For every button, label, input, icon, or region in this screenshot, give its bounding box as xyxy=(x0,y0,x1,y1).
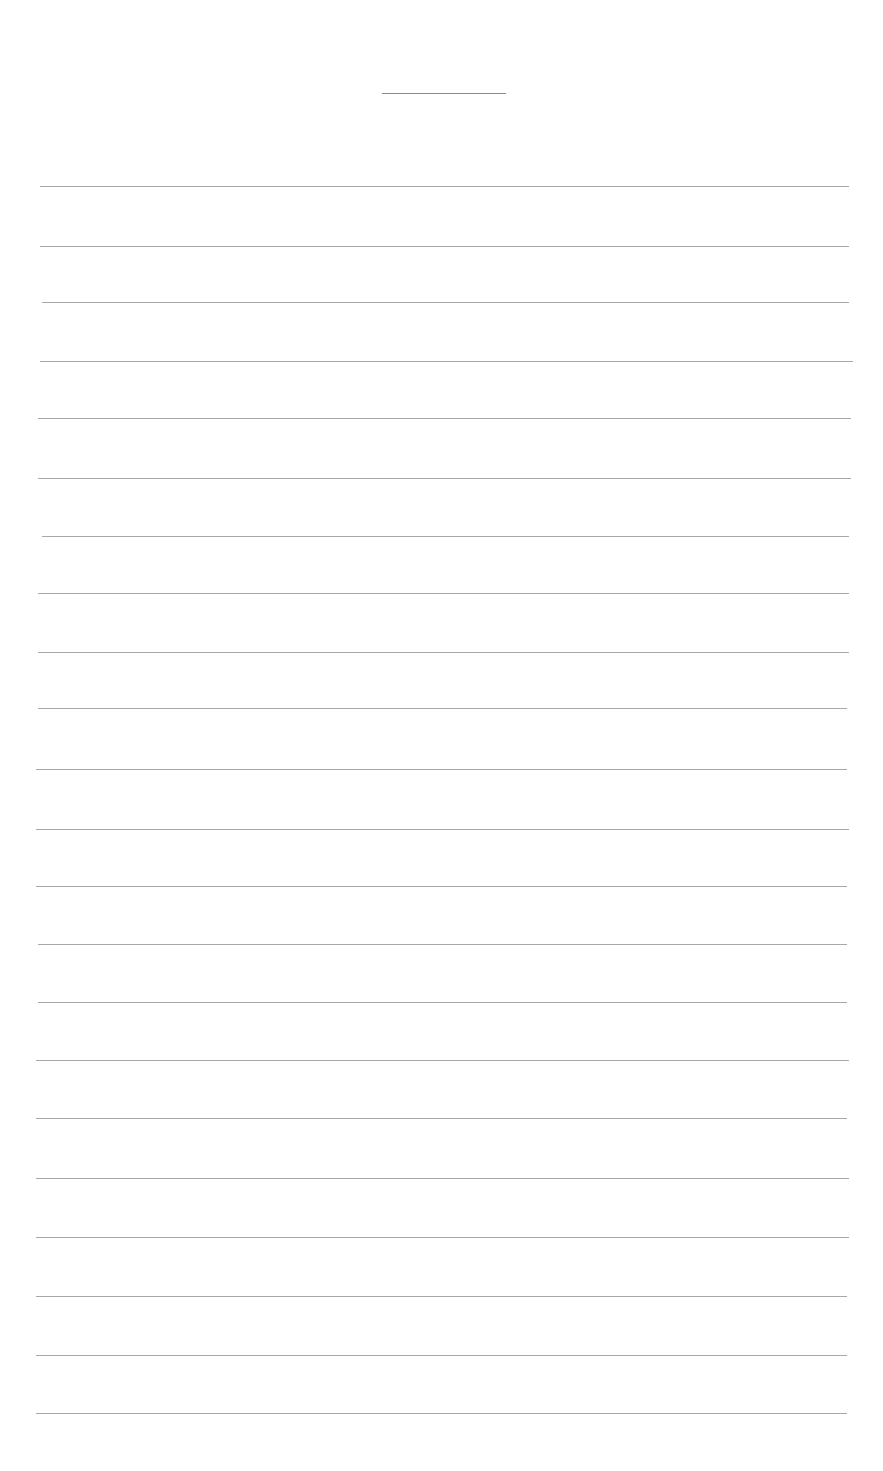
ruled-line xyxy=(38,418,851,419)
ruled-line xyxy=(42,536,849,537)
ruled-line xyxy=(38,1002,847,1003)
ruled-line xyxy=(38,478,851,479)
ruled-line xyxy=(36,1413,847,1414)
ruled-line xyxy=(38,593,849,594)
ruled-line xyxy=(36,1237,849,1238)
title-line xyxy=(382,93,506,94)
ruled-line xyxy=(36,829,849,830)
ruled-line xyxy=(40,246,849,247)
ruled-line xyxy=(40,361,853,362)
ruled-line xyxy=(36,1178,849,1179)
ruled-line xyxy=(38,708,847,709)
ruled-line xyxy=(42,302,849,303)
ruled-line xyxy=(36,1355,847,1356)
ruled-line xyxy=(36,1060,849,1061)
ruled-line xyxy=(36,1296,847,1297)
ruled-line xyxy=(36,769,847,770)
ruled-line xyxy=(36,1118,847,1119)
ruled-line xyxy=(38,944,847,945)
ruled-line xyxy=(40,186,849,187)
ruled-line xyxy=(38,652,849,653)
ruled-line xyxy=(36,886,847,887)
